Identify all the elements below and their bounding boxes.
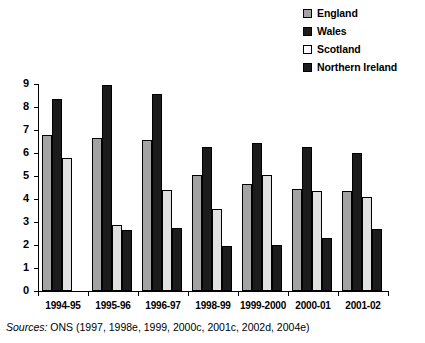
legend-item-scotland: Scotland <box>303 40 425 58</box>
y-axis-tick: 4 <box>34 199 38 200</box>
legend-label: Wales <box>317 26 346 37</box>
y-axis-tick: 9 <box>34 84 38 85</box>
source-lead: Sources: <box>6 321 47 333</box>
legend-label: Scotland <box>317 44 361 55</box>
bar <box>252 143 262 291</box>
bar <box>212 209 222 291</box>
y-axis-tick-label: 7 <box>23 123 29 136</box>
x-axis-label: 1996-97 <box>138 300 188 311</box>
y-axis-tick-label: 5 <box>23 169 29 182</box>
bar <box>52 99 62 291</box>
bar-group <box>42 84 82 291</box>
bar-group <box>292 84 332 291</box>
x-axis-label: 1998-99 <box>188 300 238 311</box>
y-axis-tick-label: 2 <box>23 238 29 251</box>
y-axis-tick: 1 <box>34 268 38 269</box>
bar <box>62 158 72 291</box>
bar <box>202 147 212 291</box>
legend-swatch-icon <box>303 63 312 72</box>
chart-legend: EnglandWalesScotlandNorthern Ireland <box>303 4 425 76</box>
x-axis-label: 1994-95 <box>38 300 88 311</box>
legend-item-england: England <box>303 4 425 22</box>
bar <box>272 245 282 291</box>
y-axis-tick: 3 <box>34 222 38 223</box>
bar <box>222 246 232 291</box>
bar <box>152 94 162 291</box>
bar <box>42 135 52 291</box>
bar <box>312 191 322 291</box>
x-axis-label: 1999-2000 <box>238 300 288 311</box>
bar-group <box>342 84 382 291</box>
bar <box>162 190 172 291</box>
plot-area: 01234567891994-951995-961996-971998-9919… <box>38 84 388 292</box>
x-axis-tick <box>88 291 89 296</box>
y-axis-tick-label: 9 <box>23 77 29 90</box>
bar <box>242 184 252 291</box>
bar <box>322 238 332 291</box>
y-axis-tick-label: 4 <box>23 192 29 205</box>
y-axis-tick-label: 8 <box>23 100 29 113</box>
legend-swatch-icon <box>303 27 312 36</box>
source-text: ONS (1997, 1998e, 1999, 2000c, 2001c, 20… <box>50 321 309 333</box>
bar <box>102 85 112 291</box>
bar-group <box>92 84 132 291</box>
y-axis-tick-label: 3 <box>23 215 29 228</box>
x-axis-tick <box>38 291 39 296</box>
bar-group <box>142 84 182 291</box>
y-axis-tick: 5 <box>34 176 38 177</box>
bar <box>112 225 122 291</box>
legend-item-ni: Northern Ireland <box>303 58 425 76</box>
x-axis-tick <box>388 291 389 296</box>
x-axis-tick <box>288 291 289 296</box>
bar <box>292 189 302 291</box>
legend-swatch-icon <box>303 9 312 18</box>
bar <box>362 197 372 291</box>
x-axis-label: 1995-96 <box>88 300 138 311</box>
y-axis-tick: 6 <box>34 153 38 154</box>
bar-group <box>192 84 232 291</box>
x-axis-label: 2000-01 <box>288 300 338 311</box>
legend-label: Northern Ireland <box>317 62 397 73</box>
y-axis-tick: 7 <box>34 130 38 131</box>
bar <box>372 229 382 291</box>
legend-label: England <box>317 8 358 19</box>
bar <box>142 140 152 291</box>
bar <box>352 153 362 291</box>
x-axis-tick <box>338 291 339 296</box>
bar <box>92 138 102 291</box>
x-axis-label: 2001-02 <box>338 300 388 311</box>
bar <box>262 175 272 291</box>
y-axis-tick-label: 6 <box>23 146 29 159</box>
bar-group <box>242 84 282 291</box>
y-axis-tick: 2 <box>34 245 38 246</box>
x-axis-tick <box>138 291 139 296</box>
bar <box>342 191 352 291</box>
cropped-title-fragment <box>8 0 308 5</box>
y-axis-line <box>38 84 39 292</box>
x-axis-tick <box>188 291 189 296</box>
legend-swatch-icon <box>303 45 312 54</box>
bar <box>172 228 182 291</box>
y-axis-tick-label: 1 <box>23 261 29 274</box>
x-axis-line <box>38 291 388 292</box>
y-axis-tick: 8 <box>34 107 38 108</box>
legend-item-wales: Wales <box>303 22 425 40</box>
bar <box>302 147 312 291</box>
x-axis-tick <box>238 291 239 296</box>
bar-chart-figure: EnglandWalesScotlandNorthern Ireland 012… <box>0 0 425 343</box>
bar <box>122 230 132 291</box>
bar <box>192 175 202 291</box>
source-note: Sources: ONS (1997, 1998e, 1999, 2000c, … <box>6 321 310 334</box>
y-axis-tick-label: 0 <box>23 284 29 297</box>
